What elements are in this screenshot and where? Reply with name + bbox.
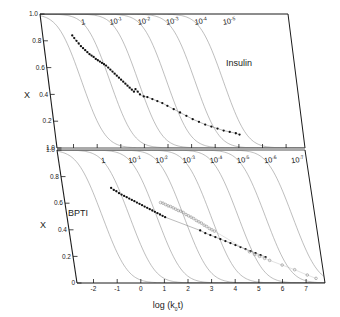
data-point <box>101 62 103 64</box>
y-tick-label: 0.6 <box>36 64 45 71</box>
data-point <box>73 37 75 39</box>
data-point <box>126 196 128 198</box>
data-point <box>156 100 158 102</box>
bpti-y-axis-title: X <box>40 220 46 230</box>
data-point <box>179 111 181 113</box>
x-tick-label: 6 <box>281 285 285 292</box>
data-point <box>192 118 194 120</box>
data-point <box>156 212 158 214</box>
data-point <box>109 68 111 70</box>
data-point <box>113 72 115 74</box>
data-point <box>235 132 237 134</box>
data-point <box>161 215 163 217</box>
data-point <box>120 79 122 81</box>
data-point <box>136 201 138 203</box>
data-point <box>173 108 175 110</box>
insulin-y-axis-title: X <box>24 90 30 100</box>
data-point <box>141 204 143 206</box>
data-point <box>151 98 153 100</box>
data-point <box>223 129 225 131</box>
y-tick-label: 1.0 <box>46 146 55 153</box>
data-point <box>120 193 122 195</box>
data-point <box>139 93 141 95</box>
data-point <box>229 242 231 244</box>
y-tick-label: 0 <box>71 279 75 286</box>
x-axis-title-main: log (k <box>153 300 176 310</box>
insulin-panel-label: Insulin <box>226 58 252 68</box>
y-tick-label: 0.2 <box>62 253 71 260</box>
data-point <box>229 131 231 133</box>
data-point <box>204 123 206 125</box>
data-point <box>166 105 168 107</box>
data-point <box>209 234 211 236</box>
data-point <box>154 211 156 213</box>
data-point <box>92 56 94 58</box>
x-axis-title-tail: t) <box>178 300 184 310</box>
figure-background <box>0 0 340 317</box>
data-point <box>82 47 84 49</box>
data-point <box>129 87 131 89</box>
data-point <box>133 91 135 93</box>
data-point <box>80 45 82 47</box>
data-point <box>219 238 221 240</box>
data-point <box>126 85 128 87</box>
data-point <box>204 232 206 234</box>
data-point <box>210 125 212 127</box>
y-tick-label: 1.0 <box>29 10 38 17</box>
data-point <box>137 91 139 93</box>
data-point <box>234 244 236 246</box>
data-point <box>143 95 145 97</box>
data-point <box>216 127 218 129</box>
x-tick-label: 4 <box>233 285 237 292</box>
x-tick-label: 5 <box>257 285 261 292</box>
x-tick-label: -2 <box>91 285 97 292</box>
data-point <box>198 121 200 123</box>
data-point <box>134 88 136 90</box>
y-tick-label: 0.2 <box>43 117 52 124</box>
data-point <box>122 81 124 83</box>
data-point <box>161 102 163 104</box>
data-point <box>113 189 115 191</box>
data-point <box>86 51 88 53</box>
x-tick-label: 3 <box>210 285 214 292</box>
y-tick-label: 0.8 <box>50 173 59 180</box>
data-point <box>159 213 161 215</box>
two-panel-sigmoid-figure: 1.00.80.60.40.21.0 X 110-110-210-310-410… <box>0 0 340 317</box>
data-point <box>105 64 107 66</box>
data-point <box>97 59 99 61</box>
data-point <box>116 74 118 76</box>
data-point <box>103 63 105 65</box>
data-point <box>90 54 92 56</box>
data-point <box>146 96 148 98</box>
data-point <box>146 207 148 209</box>
x-tick-label: 2 <box>186 285 190 292</box>
data-point <box>164 216 166 218</box>
data-point <box>88 53 90 55</box>
x-tick-label: 1 <box>163 285 167 292</box>
data-point <box>110 187 112 189</box>
data-point <box>128 197 130 199</box>
data-point <box>107 66 109 68</box>
data-point <box>84 49 86 51</box>
data-point <box>151 209 153 211</box>
data-point <box>214 236 216 238</box>
data-point <box>238 133 240 135</box>
data-point <box>124 83 126 85</box>
y-tick-label: 0.8 <box>32 37 41 44</box>
data-point <box>131 199 133 201</box>
figure-root: 1.00.80.60.40.21.0 X 110-110-210-310-410… <box>0 0 340 317</box>
data-point <box>123 195 125 197</box>
data-point <box>118 77 120 79</box>
y-tick-label: 0.4 <box>58 226 67 233</box>
data-point <box>78 42 80 44</box>
data-point <box>95 58 97 60</box>
x-tick-label: 0 <box>139 285 143 292</box>
bpti-panel-label: BPTI <box>68 208 88 218</box>
y-tick-label: 0.6 <box>54 199 63 206</box>
data-point <box>99 60 101 62</box>
data-point <box>138 203 140 205</box>
x-tick-label: 7 <box>304 285 308 292</box>
data-point <box>111 70 113 72</box>
data-point <box>131 89 133 91</box>
x-axis-title: log (k0t) <box>153 300 183 312</box>
